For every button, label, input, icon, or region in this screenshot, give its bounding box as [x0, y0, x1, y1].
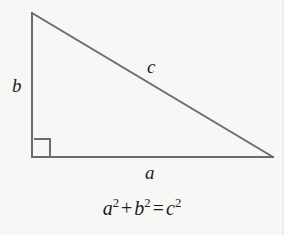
- equation-base-a: a: [103, 197, 113, 219]
- label-side-b: b: [12, 76, 22, 95]
- equation-base-b: b: [134, 197, 144, 219]
- equation-exponent-c: 2: [175, 196, 181, 210]
- figure-canvas: b c a a2+b2=c2: [0, 0, 284, 235]
- pythagorean-equation: a2+b2=c2: [0, 198, 284, 218]
- label-side-a: a: [145, 163, 155, 182]
- equation-plus-operator: +: [119, 197, 134, 219]
- label-side-c: c: [147, 57, 155, 76]
- equation-base-c: c: [166, 197, 175, 219]
- equation-equals-operator: =: [151, 197, 166, 219]
- equation-exponent-b: 2: [144, 196, 150, 210]
- hypotenuse-line: [32, 13, 273, 157]
- right-angle-marker-icon: [34, 139, 50, 157]
